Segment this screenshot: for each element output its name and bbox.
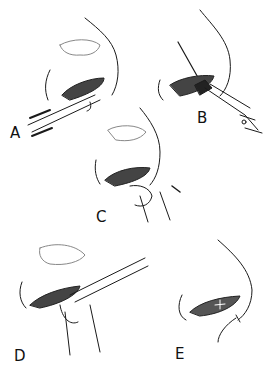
- panel-e-drawing: [179, 240, 252, 342]
- panel-a-drawing: [28, 18, 118, 136]
- panel-label-a: A: [10, 124, 20, 142]
- illustration-canvas: [0, 0, 270, 366]
- panel-d-drawing: [20, 245, 148, 355]
- panel-b-drawing: [158, 10, 262, 133]
- panel-label-c: C: [96, 208, 106, 226]
- panel-label-d: D: [14, 347, 26, 365]
- panel-label-e: E: [175, 345, 184, 363]
- panel-c-drawing: [95, 108, 180, 222]
- panel-label-b: B: [197, 109, 207, 127]
